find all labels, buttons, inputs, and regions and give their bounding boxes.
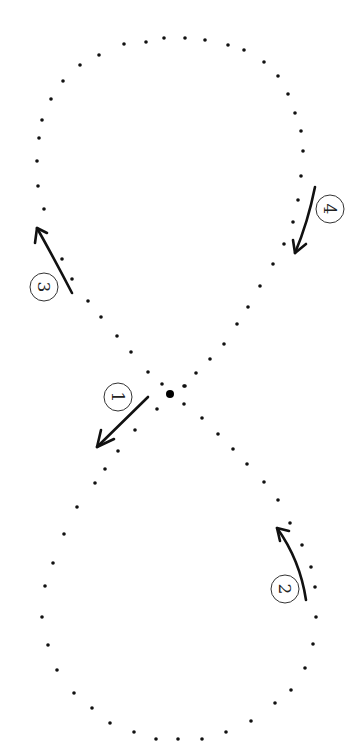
path-dot: [296, 198, 300, 202]
path-dot: [249, 719, 253, 723]
path-dot: [235, 322, 239, 326]
path-dot: [35, 159, 39, 163]
path-dot: [299, 174, 303, 178]
path-dot: [108, 721, 112, 725]
path-dot: [300, 543, 304, 547]
path-dot: [49, 97, 53, 101]
path-dot: [93, 481, 97, 485]
figure-eight-diagram: 1234: [0, 0, 363, 749]
path-dot: [116, 449, 120, 453]
path-dot: [309, 565, 313, 569]
path-dot: [115, 334, 119, 338]
step-marker-4: 4: [293, 187, 344, 253]
path-dot: [286, 92, 290, 96]
path-dot: [200, 416, 204, 420]
path-dot: [78, 63, 82, 67]
path-dot: [203, 38, 207, 42]
path-dot: [72, 691, 76, 695]
path-dot: [183, 384, 187, 388]
path-dot: [90, 706, 94, 710]
path-dot: [61, 79, 65, 83]
path-dot: [132, 730, 136, 734]
path-dot: [62, 532, 66, 536]
path-dot: [313, 585, 317, 589]
path-dot: [288, 521, 292, 525]
path-dot: [258, 284, 262, 288]
step-marker-2: 2: [271, 528, 306, 603]
path-dot: [154, 737, 158, 741]
crossing-point: [166, 390, 174, 398]
path-dot: [314, 615, 318, 619]
dotted-path: [35, 36, 318, 741]
path-dot: [291, 220, 295, 224]
path-dot: [99, 315, 103, 319]
path-dot: [262, 480, 266, 484]
path-dot: [245, 462, 249, 466]
step-number-label: 3: [34, 282, 54, 293]
path-dot: [176, 737, 180, 741]
path-dot: [182, 402, 186, 406]
path-dot: [276, 498, 280, 502]
path-dot: [273, 701, 277, 705]
path-dot: [301, 149, 305, 153]
path-dot: [40, 615, 44, 619]
path-dot: [55, 668, 59, 672]
path-dot: [122, 42, 126, 46]
path-dot: [303, 666, 307, 670]
path-dot: [51, 561, 55, 565]
path-dot: [103, 467, 107, 471]
step-marker-1: 1: [97, 383, 148, 447]
path-dot: [311, 642, 315, 646]
path-dot: [216, 432, 220, 436]
step-number-label: 1: [108, 392, 128, 403]
path-dot: [162, 36, 166, 40]
path-dot: [289, 688, 293, 692]
path-dot: [97, 53, 101, 57]
step-number-label: 4: [320, 204, 340, 215]
path-dot: [86, 299, 90, 303]
path-dot: [144, 40, 148, 44]
path-dot: [129, 350, 133, 354]
path-dot: [222, 342, 226, 346]
path-dot: [293, 111, 297, 115]
path-dot: [75, 505, 79, 509]
step-marker-3: 3: [30, 228, 72, 301]
path-dot: [208, 357, 212, 361]
path-dot: [262, 60, 266, 64]
path-dot: [42, 207, 46, 211]
path-dot: [46, 643, 50, 647]
path-dot: [242, 48, 246, 52]
path-dot: [146, 370, 150, 374]
direction-markers: 1234: [30, 187, 344, 603]
path-dot: [224, 730, 228, 734]
step-number-label: 2: [275, 584, 295, 595]
path-dot: [231, 447, 235, 451]
path-dot: [226, 43, 230, 47]
path-dot: [194, 371, 198, 375]
path-dot: [133, 428, 137, 432]
path-dot: [36, 184, 40, 188]
path-dot: [40, 118, 44, 122]
path-dot: [37, 136, 41, 140]
path-dot: [200, 737, 204, 741]
path-dot: [155, 407, 159, 411]
path-dot: [276, 74, 280, 78]
path-dot: [183, 36, 187, 40]
path-dot: [60, 257, 64, 261]
path-dot: [246, 305, 250, 309]
path-dot: [282, 242, 286, 246]
path-dot: [70, 277, 74, 281]
path-dot: [271, 262, 275, 266]
direction-arrow-icon: [295, 187, 315, 253]
path-dot: [43, 584, 47, 588]
path-dot: [160, 382, 164, 386]
path-dot: [299, 129, 303, 133]
